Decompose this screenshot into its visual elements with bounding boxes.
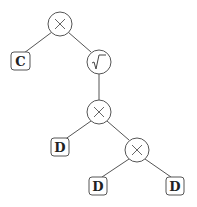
- multiply-node-lower: [125, 138, 149, 162]
- edge-root-sqrt: [68, 32, 91, 52]
- multiply-node-middle: [87, 100, 111, 124]
- expression-tree-diagram: C D D D: [0, 0, 197, 207]
- edge-mid-low: [107, 121, 129, 140]
- leaf-node-c: C: [11, 52, 30, 70]
- leaf-node-d-2: D: [89, 177, 107, 195]
- multiply-node-root: [48, 12, 72, 36]
- edge-low-d2: [102, 159, 129, 177]
- leaf-node-d-1: D: [51, 138, 69, 156]
- leaf-label-d: D: [54, 140, 65, 155]
- sqrt-node: [87, 50, 111, 74]
- edge-low-d3: [145, 159, 171, 177]
- leaf-node-d-3: D: [166, 177, 184, 195]
- leaf-label-d: D: [92, 179, 103, 194]
- edge-mid-d1: [64, 121, 91, 140]
- leaf-label-c: C: [15, 54, 25, 69]
- leaf-label-d: D: [169, 179, 180, 194]
- edge-root-c: [24, 32, 52, 53]
